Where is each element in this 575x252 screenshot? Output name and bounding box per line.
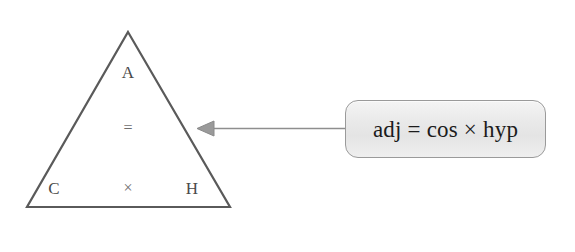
formula-callout-text: adj = cos × hyp <box>373 118 518 141</box>
formula-callout-box: adj = cos × hyp <box>345 100 546 158</box>
figure-root: A = C × H adj = cos × hyp <box>0 0 575 252</box>
triangle-label-hypotenuse: H <box>186 180 198 197</box>
triangle-label-adjacent: A <box>122 64 134 81</box>
callout-arrow-head <box>197 121 214 136</box>
triangle-label-times: × <box>123 180 132 196</box>
triangle-label-equals: = <box>123 120 132 136</box>
triangle-label-cosine: C <box>48 180 59 197</box>
